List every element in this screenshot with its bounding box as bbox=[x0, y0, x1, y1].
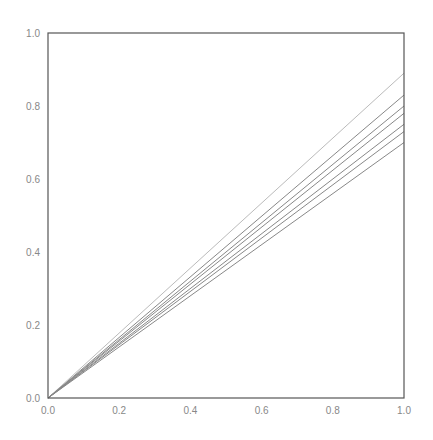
series-line-2 bbox=[48, 95, 404, 398]
y-tick-label: 0.0 bbox=[26, 393, 40, 404]
line-chart: 0.00.20.40.60.81.0 0.00.20.40.60.81.0 bbox=[0, 0, 433, 440]
series-line-5 bbox=[48, 124, 404, 398]
x-tick-label: 0.0 bbox=[41, 405, 55, 416]
series-line-1 bbox=[48, 73, 404, 398]
x-tick-label: 1.0 bbox=[397, 405, 411, 416]
axes-frame bbox=[48, 33, 404, 398]
x-tick-label: 0.2 bbox=[112, 405, 126, 416]
series-line-4 bbox=[48, 113, 404, 398]
x-axis-ticks: 0.00.20.40.60.81.0 bbox=[41, 405, 411, 416]
series-line-3 bbox=[48, 106, 404, 398]
y-axis-ticks: 0.00.20.40.60.81.0 bbox=[26, 28, 40, 404]
y-tick-label: 0.6 bbox=[26, 174, 40, 185]
series-line-6 bbox=[48, 132, 404, 398]
y-tick-label: 0.4 bbox=[26, 247, 40, 258]
x-tick-label: 0.6 bbox=[255, 405, 269, 416]
plot-lines bbox=[48, 73, 404, 398]
x-tick-label: 0.8 bbox=[326, 405, 340, 416]
y-tick-label: 0.2 bbox=[26, 320, 40, 331]
y-tick-label: 0.8 bbox=[26, 101, 40, 112]
x-tick-label: 0.4 bbox=[183, 405, 197, 416]
y-tick-label: 1.0 bbox=[26, 28, 40, 39]
series-line-7 bbox=[48, 143, 404, 399]
